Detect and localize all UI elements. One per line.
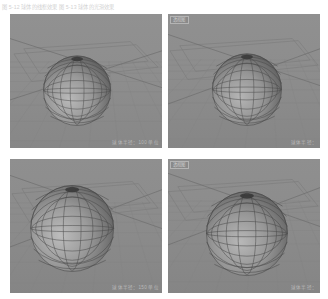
viewport-bottom-right[interactable]: 透视图 球体半径： [167, 158, 321, 294]
viewport-bottom-left-render [10, 159, 162, 293]
figure-caption-bar: 图 5-12 球体的线框效果 图 5-13 球体的光滑效果 [0, 0, 328, 14]
viewport-top-left-render [10, 14, 162, 148]
viewport-top-right[interactable]: 透视图 球体半径： [167, 13, 321, 149]
viewport-bottom-right-label[interactable]: 透视图 [170, 161, 189, 169]
viewport-bottom-left-scene[interactable] [10, 159, 162, 293]
viewport-bottom-left[interactable]: 球体半径：150 单位 [9, 158, 163, 294]
viewport-bottom-right-scene[interactable] [168, 159, 320, 293]
viewport-bottom-left-hud: 球体半径：150 单位 [112, 285, 159, 291]
figure-caption-text: 图 5-12 球体的线框效果 图 5-13 球体的光滑效果 [2, 4, 114, 10]
viewport-grid: 球体半径：100 单位 [9, 13, 321, 294]
viewport-top-right-scene[interactable] [168, 14, 320, 148]
viewport-top-right-label[interactable]: 透视图 [170, 16, 189, 24]
viewport-top-left[interactable]: 球体半径：100 单位 [9, 13, 163, 149]
viewport-bottom-right-render [168, 159, 320, 293]
viewport-top-left-hud: 球体半径：100 单位 [112, 140, 159, 146]
viewport-top-right-hud: 球体半径： [291, 140, 317, 146]
viewport-top-left-scene[interactable] [10, 14, 162, 148]
viewport-top-right-render [168, 14, 320, 148]
viewport-bottom-right-hud: 球体半径： [291, 285, 317, 291]
